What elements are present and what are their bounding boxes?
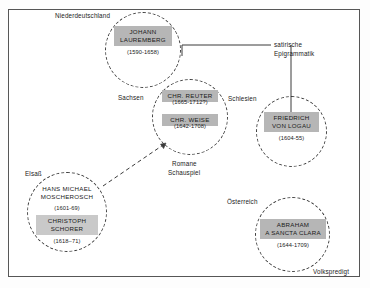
region-label-oesterreich: Österreich — [227, 198, 258, 205]
annotation-satirische-epigrammatik-line2: Epigrammatik — [274, 49, 314, 58]
connector-moscherosch-to-sachsen — [103, 143, 166, 186]
genre-label-sachsen-line2: Schauspiel — [168, 168, 200, 177]
person-name-line1: HANS MICHAEL — [32, 185, 102, 193]
person-namebox-schorer: CHRISTOPH SCHORER — [36, 215, 98, 235]
region-label-elsass: Elsaß — [25, 170, 42, 177]
person-namebox-abraham: ABRAHAM A SANCTA CLARA — [260, 219, 326, 239]
person-name-line1: ABRAHAM — [263, 221, 323, 229]
person-dates-abraham: (1644-1709) — [260, 242, 326, 248]
person-namebox-logau: FRIEDRICH VON LOGAU — [264, 112, 319, 132]
person-dates-logau: (1604-55) — [264, 135, 319, 141]
person-namebox-lauremberg: JOHANN LAUREMBERG — [114, 26, 172, 46]
person-name-line2: A SANCTA CLARA — [263, 229, 323, 237]
region-label-sachsen: Sachsen — [118, 94, 144, 101]
person-dates-moscherosch: (1601-69) — [29, 205, 105, 211]
person-namebox-moscherosch: HANS MICHAEL MOSCHEROSCH — [29, 183, 105, 203]
genre-label-volkspredigt: Volkspredigt — [313, 267, 349, 276]
person-dates-lauremberg: (1590-1658) — [114, 49, 172, 55]
annotation-satirische-epigrammatik-line1: satirische — [274, 40, 302, 49]
person-name-line2: MOSCHEROSCH — [32, 193, 102, 201]
person-name-line2: VON LOGAU — [267, 122, 316, 130]
genre-label-sachsen-line1: Romane — [172, 159, 197, 168]
person-dates-reuter: (1665-1712?) — [162, 99, 218, 105]
diagram-canvas: Niederdeutschland JOHANN LAUREMBERG (159… — [0, 0, 370, 288]
person-name-line1: CHRISTOPH — [39, 217, 95, 225]
person-name-line2: LAUREMBERG — [117, 36, 169, 44]
person-dates-weise: (1642-1708) — [162, 123, 218, 129]
region-label-schlesien: Schlesien — [228, 95, 257, 102]
person-name-line2: SCHORER — [39, 225, 95, 233]
region-label-niederdeutschland: Niederdeutschland — [55, 12, 110, 19]
person-name-line1: FRIEDRICH — [267, 114, 316, 122]
person-dates-schorer: (1618–71) — [36, 238, 98, 244]
person-name-line1: JOHANN — [117, 28, 169, 36]
